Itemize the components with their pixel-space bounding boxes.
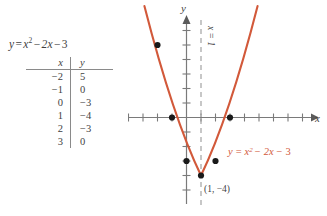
column-header-y: y bbox=[71, 57, 114, 70]
column-header-x: x bbox=[26, 57, 71, 70]
cell-x: 0 bbox=[26, 96, 71, 109]
curve-label-minus1: − bbox=[255, 146, 261, 157]
table-row: 1 −4 bbox=[26, 109, 113, 122]
figure-container: y=x2−2x−3 x y −2 5 −1 0 0 bbox=[0, 0, 327, 216]
value-table: x y −2 5 −1 0 0 −3 1 −4 bbox=[26, 57, 113, 148]
table-row: −1 0 bbox=[26, 83, 113, 96]
y-axis-label: y bbox=[180, 2, 186, 14]
curve-label-exponent: 2 bbox=[249, 146, 253, 154]
point-1-minus4 bbox=[198, 172, 204, 178]
parabola-graph: x y x = 1 (1, −4) y=x2−2x−3 bbox=[128, 0, 327, 216]
cell-y: 0 bbox=[71, 83, 114, 96]
point-minus1-0 bbox=[169, 114, 175, 120]
equation-text: y=x2−2x−3 bbox=[9, 36, 68, 50]
equation-equals: = bbox=[14, 38, 23, 50]
x-axis-label: x bbox=[314, 112, 320, 124]
table-header: x y bbox=[26, 57, 113, 70]
cell-y: −4 bbox=[71, 109, 114, 122]
graph-panel: x y x = 1 (1, −4) y=x2−2x−3 bbox=[128, 0, 327, 216]
curve-label-term2: 2x bbox=[264, 146, 274, 157]
vertex-label: (1, −4) bbox=[204, 184, 230, 195]
table-row: 3 0 bbox=[26, 135, 113, 148]
point-3-0 bbox=[227, 114, 233, 120]
point-minus2-5 bbox=[154, 42, 160, 48]
point-0-minus3 bbox=[183, 158, 189, 164]
cell-x: 3 bbox=[26, 135, 71, 148]
equation-minus2: − bbox=[53, 38, 62, 50]
table-row: −2 5 bbox=[26, 70, 113, 84]
table-header-row: x y bbox=[26, 57, 113, 70]
cell-x: −2 bbox=[26, 70, 71, 84]
table-body: −2 5 −1 0 0 −3 1 −4 2 −3 bbox=[26, 70, 113, 149]
table-row: 2 −3 bbox=[26, 122, 113, 135]
equation-term3: 3 bbox=[62, 38, 68, 50]
cell-y: −3 bbox=[71, 96, 114, 109]
curve-equation-label: y=x2−2x−3 bbox=[227, 146, 291, 157]
point-2-minus3 bbox=[212, 158, 218, 164]
cell-y: 5 bbox=[71, 70, 114, 84]
equation-term2: 2x bbox=[41, 38, 52, 50]
cell-y: 0 bbox=[71, 135, 114, 148]
curve-label-minus2: − bbox=[277, 146, 283, 157]
curve-label-term3: 3 bbox=[286, 146, 291, 157]
cell-x: −1 bbox=[26, 83, 71, 96]
equation-and-table-panel: y=x2−2x−3 x y −2 5 −1 0 0 bbox=[0, 0, 128, 216]
table-row: 0 −3 bbox=[26, 96, 113, 109]
cell-x: 2 bbox=[26, 122, 71, 135]
curve-label-lhs: y bbox=[227, 146, 233, 157]
cell-x: 1 bbox=[26, 109, 71, 122]
axis-of-symmetry-label: x = 1 bbox=[206, 25, 216, 46]
curve-label-equals: = bbox=[236, 146, 242, 157]
cell-y: −3 bbox=[71, 122, 114, 135]
